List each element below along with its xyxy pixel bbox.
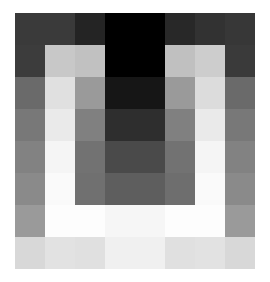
pixel-cell-r0-c6	[195, 13, 225, 45]
pixel-cell-r1-c7	[225, 45, 255, 77]
pixel-cell-r4-c5	[165, 141, 195, 173]
pixel-cell-r6-c2	[75, 205, 105, 237]
pixel-cell-r7-c7	[225, 237, 255, 269]
pixel-cell-r4-c0	[15, 141, 45, 173]
pixel-cell-r5-c6	[195, 173, 225, 205]
pixel-cell-r1-c5	[165, 45, 195, 77]
pixel-cell-r1-c1	[45, 45, 75, 77]
pixel-cell-r3-c5	[165, 109, 195, 141]
pixel-cell-r0-c0	[15, 13, 45, 45]
pixel-cell-r6-c7	[225, 205, 255, 237]
pixel-cell-r1-c2	[75, 45, 105, 77]
pixel-cell-r1-c0	[15, 45, 45, 77]
pixel-cell-r6-c3	[105, 205, 135, 237]
pixel-cell-r2-c4	[135, 77, 165, 109]
pixel-cell-r5-c4	[135, 173, 165, 205]
pixel-cell-r3-c0	[15, 109, 45, 141]
pixel-cell-r1-c6	[195, 45, 225, 77]
pixel-grid	[15, 13, 255, 269]
pixel-cell-r2-c7	[225, 77, 255, 109]
pixel-cell-r0-c3	[105, 13, 135, 45]
pixel-cell-r7-c6	[195, 237, 225, 269]
pixel-cell-r7-c4	[135, 237, 165, 269]
pixel-cell-r2-c6	[195, 77, 225, 109]
pixel-cell-r4-c7	[225, 141, 255, 173]
pixel-cell-r7-c2	[75, 237, 105, 269]
pixel-cell-r1-c3	[105, 45, 135, 77]
pixel-cell-r5-c0	[15, 173, 45, 205]
pixel-cell-r2-c1	[45, 77, 75, 109]
pixel-cell-r5-c5	[165, 173, 195, 205]
pixel-cell-r4-c4	[135, 141, 165, 173]
pixel-cell-r5-c7	[225, 173, 255, 205]
pixelated-image-figure	[0, 0, 270, 282]
pixel-cell-r5-c1	[45, 173, 75, 205]
pixel-cell-r7-c3	[105, 237, 135, 269]
pixel-cell-r6-c4	[135, 205, 165, 237]
pixel-cell-r4-c3	[105, 141, 135, 173]
pixel-cell-r2-c3	[105, 77, 135, 109]
pixel-cell-r2-c2	[75, 77, 105, 109]
pixel-cell-r3-c2	[75, 109, 105, 141]
pixel-cell-r0-c7	[225, 13, 255, 45]
pixel-cell-r6-c1	[45, 205, 75, 237]
pixel-cell-r4-c1	[45, 141, 75, 173]
pixel-cell-r3-c4	[135, 109, 165, 141]
pixel-cell-r7-c1	[45, 237, 75, 269]
pixel-cell-r6-c6	[195, 205, 225, 237]
pixel-cell-r4-c2	[75, 141, 105, 173]
pixel-cell-r4-c6	[195, 141, 225, 173]
pixel-cell-r2-c5	[165, 77, 195, 109]
pixel-cell-r3-c1	[45, 109, 75, 141]
pixel-cell-r7-c5	[165, 237, 195, 269]
pixel-cell-r0-c2	[75, 13, 105, 45]
pixel-cell-r7-c0	[15, 237, 45, 269]
pixel-cell-r0-c4	[135, 13, 165, 45]
pixel-cell-r6-c5	[165, 205, 195, 237]
pixel-cell-r0-c1	[45, 13, 75, 45]
pixel-cell-r3-c7	[225, 109, 255, 141]
pixel-cell-r3-c6	[195, 109, 225, 141]
pixel-cell-r3-c3	[105, 109, 135, 141]
pixel-cell-r5-c2	[75, 173, 105, 205]
pixel-cell-r1-c4	[135, 45, 165, 77]
pixel-cell-r6-c0	[15, 205, 45, 237]
pixel-cell-r5-c3	[105, 173, 135, 205]
pixel-cell-r2-c0	[15, 77, 45, 109]
pixel-cell-r0-c5	[165, 13, 195, 45]
